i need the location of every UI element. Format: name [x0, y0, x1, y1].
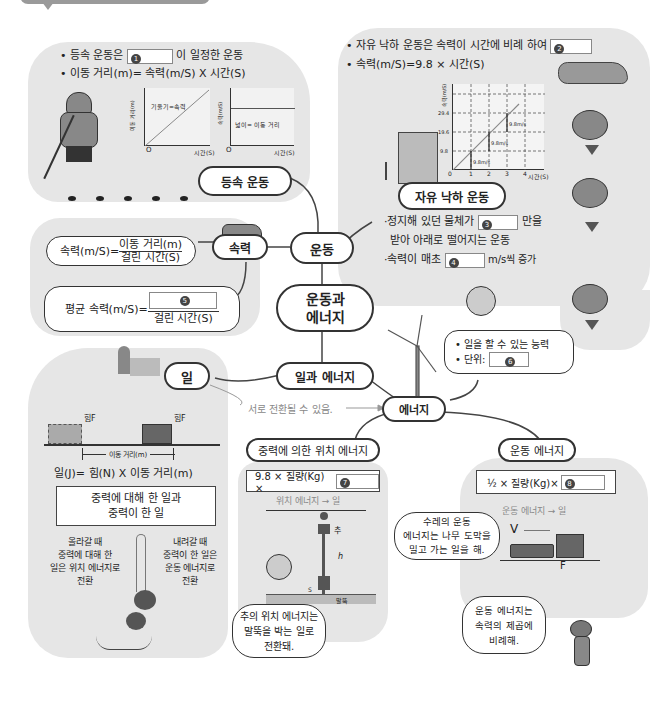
graph2-xlabel: 시간(S) [274, 148, 295, 157]
potential-formula-box: 9.8 × 질량(Kg) × 7 [246, 470, 380, 492]
force-diagram: 힘F 힘F [48, 412, 218, 452]
blank-3-input[interactable]: 3 [478, 215, 518, 230]
dropped-object [385, 162, 387, 180]
node-work[interactable]: 일 [164, 362, 210, 390]
svg-text:9.8m/s: 9.8m/s [473, 159, 491, 165]
speed-formula-lhs: 속력(m/S)= [60, 244, 119, 259]
pile-driver-illustration: 추 h 말뚝 S [266, 508, 376, 608]
free-fall-graph-xlabel: 시간(S) [528, 172, 549, 181]
dog-illustration [566, 620, 594, 676]
free-fall-desc2: 받아 아래로 떨어지는 운동 [390, 233, 511, 248]
weight-label: 추 [334, 524, 341, 535]
node-free-fall[interactable]: 자유 낙하 운동 [398, 182, 506, 210]
cart-speech-line1: 수레의 운동 [423, 515, 471, 529]
potential-speech-line2: 말뚝을 박는 일로 [244, 624, 313, 639]
energy-def-unit-label: • 단위: [455, 354, 485, 365]
uniform-motion-line1: • 등속 운동은 1 이 일정한 운동 [60, 48, 243, 64]
boy-pointing-illustration [466, 286, 496, 316]
node-motion[interactable]: 운동 [290, 232, 354, 264]
node-uniform-motion[interactable]: 등속 운동 [198, 166, 292, 196]
node-potential-energy[interactable]: 중력에 의한 위치 에너지 [246, 438, 380, 462]
down-arrow-1 [585, 145, 599, 155]
avg-speed-lhs: 평균 속력(m/S)= [65, 302, 148, 317]
skydiver-3 [572, 284, 608, 314]
free-fall-line1-text: • 자유 낙하 운동은 속력이 시간에 비례 하여 [346, 39, 547, 52]
energy-def-line1: • 일을 할 수 있는 능력 [455, 337, 549, 352]
building-illustration [398, 132, 438, 184]
node-motion-and-energy[interactable]: 운동과 에너지 [276, 284, 374, 332]
blank-1-input[interactable]: 1 [127, 49, 173, 64]
down-text-line3: 운동 에너지로 [150, 562, 230, 575]
cart-speech-line3: 밀고 가는 일을 해. [409, 543, 484, 557]
dog-speech-bubble: 운동 에너지는 속력의 제곱에 비례해. [462, 596, 546, 654]
work-formula: 일(J)= 힘(N) X 이동 거리(m) [54, 466, 193, 481]
blank-6-number: 6 [505, 357, 515, 367]
graph1-xlabel: 시간(S) [194, 148, 215, 157]
desc1-post: 만을 [522, 215, 542, 228]
conversion-note: 서로 전환될 수 있음. [248, 402, 333, 417]
girl-stairs-illustration [118, 346, 160, 376]
graph1-origin: O [146, 146, 152, 154]
skydiver-1 [572, 110, 608, 140]
down-text-line1: 내려갈 때 [150, 536, 230, 549]
speed-time-graph: 넓이= 이동 거리 [230, 88, 294, 146]
blank-2-input[interactable]: 2 [550, 39, 592, 54]
force-label-2: 힘F [174, 412, 186, 423]
down-text-line4: 전환 [150, 575, 230, 588]
force-label-1: 힘F [84, 412, 96, 423]
blank-6-input[interactable]: 6 [489, 352, 529, 367]
blank-8-input[interactable]: 8 [561, 475, 605, 490]
y-tick-9-8: 9.8 [440, 148, 448, 154]
blank-4-input[interactable]: 4 [445, 253, 485, 268]
hand-illustration [96, 636, 152, 650]
svg-text:9.8m/s: 9.8m/s [509, 121, 527, 127]
x-tick-1: 1 [469, 170, 473, 177]
desc3-pre: ·속력이 매초 [384, 253, 441, 266]
kinetic-convert-text: 운동 에너지 → 일 [502, 504, 566, 519]
blank-5-number: 5 [180, 296, 190, 306]
desc1-pre: ·정지해 있던 물체가 [384, 215, 475, 228]
node-work-and-energy[interactable]: 일과 에너지 [276, 362, 374, 390]
hockey-player-illustration [52, 92, 112, 182]
svg-text:9.8m/s: 9.8m/s [491, 140, 509, 146]
down-text-line2: 중력이 한 일은 [150, 549, 230, 562]
gravity-box-line2: 중력이 한 일 [108, 506, 165, 521]
speed-numerator: 이동 거리(m) [119, 239, 182, 252]
distance-arrow: 이동 거리(m) [82, 448, 174, 460]
node-energy[interactable]: 에너지 [382, 396, 446, 422]
potential-speech-bubble: 추의 위치 에너지는 말뚝을 박는 일로 전환돼. [232, 604, 326, 658]
speed-denominator: 걸린 시간(S) [121, 252, 180, 264]
free-fall-line2: • 속력(m/S)=9.8 × 시간(S) [346, 57, 484, 72]
node-kinetic-energy[interactable]: 운동 에너지 [498, 438, 576, 462]
blank-7-number: 7 [340, 478, 350, 488]
blank-2-number: 2 [554, 44, 564, 54]
blank-5-input[interactable]: 5 [149, 292, 217, 309]
line1-pre: • 등속 운동은 [60, 49, 123, 62]
graph2-note: 넓이= 이동 거리 [235, 120, 280, 129]
cart-speech-line2: 에너지는 나무 도막을 [403, 529, 490, 543]
kinetic-formula-box: ½ × 질량(Kg)× 8 [476, 470, 616, 494]
avg-speed-denominator: 걸린 시간(S) [148, 311, 219, 326]
down-arrow-2 [585, 222, 599, 232]
free-fall-speed-graph: 9.8m/s 9.8m/s 9.8m/s [452, 84, 544, 170]
y-tick-19-6: 19.6 [438, 129, 449, 135]
pucks [68, 196, 188, 202]
x-tick-4: 4 [523, 170, 527, 177]
dog-speech-line1: 운동 에너지는 [475, 603, 532, 618]
desc3-post: m/s씩 증가 [488, 254, 537, 265]
y-tick-29-4: 29.4 [438, 110, 449, 116]
kinetic-formula-text: ½ × 질량(Kg)× [487, 475, 559, 490]
blank-8-number: 8 [565, 479, 575, 489]
graph1-ylabel: 이동 거리(m) [128, 100, 135, 130]
node-speed[interactable]: 속력 [212, 234, 268, 260]
gravity-work-box: 중력에 대해 한 일과 중력이 한 일 [56, 486, 216, 526]
x-tick-0: 0 [448, 170, 452, 177]
blank-3-number: 3 [482, 220, 492, 230]
potential-speech-line1: 추의 위치 에너지는 [240, 609, 318, 624]
uniform-motion-line2: • 이동 거리(m)= 속력(m/S) X 시간(S) [60, 66, 246, 81]
blank-7-input[interactable]: 7 [336, 474, 379, 489]
graph2-origin: O [226, 146, 232, 154]
x-tick-2: 2 [487, 170, 491, 177]
free-fall-graph-ylabel: 속력(m/S) [440, 84, 447, 108]
down-arrow-3 [585, 320, 599, 330]
